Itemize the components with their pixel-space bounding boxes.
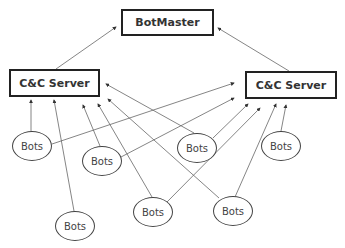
bot-label: Bots xyxy=(91,156,113,167)
arrow-bot-5-to-cc-left xyxy=(54,100,74,211)
cc-server-left-node: C&C Server xyxy=(9,69,100,97)
bot-node: Bots xyxy=(55,211,95,241)
bot-label: Bots xyxy=(186,143,208,154)
botmaster-label: BotMaster xyxy=(135,16,199,29)
bot-label: Bots xyxy=(64,221,86,232)
bot-label: Bots xyxy=(270,141,292,152)
arrow-bot-2-to-cc-left xyxy=(83,105,100,146)
cc-server-label: C&C Server xyxy=(19,77,89,90)
botnet-diagram: BotMaster C&C Server C&C Server Bots Bot… xyxy=(0,0,345,248)
cc-server-label: C&C Server xyxy=(256,79,326,92)
botmaster-node: BotMaster xyxy=(121,9,214,36)
bot-node: Bots xyxy=(12,131,52,161)
bot-node: Bots xyxy=(82,146,122,176)
arrow-bot-3-to-cc-right xyxy=(213,104,248,138)
arrow-cc-left-to-botmaster xyxy=(56,27,116,69)
bot-label: Bots xyxy=(21,141,43,152)
arrow-bot-4-to-cc-right xyxy=(281,105,286,131)
arrow-cc-right-to-botmaster xyxy=(218,28,289,71)
bot-node: Bots xyxy=(133,197,173,227)
cc-server-right-node: C&C Server xyxy=(245,71,337,99)
bot-label: Bots xyxy=(142,207,164,218)
bot-label: Bots xyxy=(222,206,244,217)
bot-node: Bots xyxy=(261,131,301,161)
bot-node: Bots xyxy=(213,196,253,226)
bot-node: Bots xyxy=(177,133,217,163)
